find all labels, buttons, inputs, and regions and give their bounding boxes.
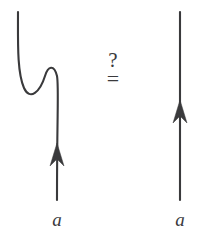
left-kinked-strand-group: [18, 12, 64, 200]
right-strand-label: a: [163, 210, 197, 229]
equals-sign-symbol: =: [96, 68, 130, 90]
diagram-svg: [0, 0, 202, 243]
left-strand-path: [18, 12, 58, 200]
right-straight-strand-group: [173, 12, 187, 200]
left-strand-label: a: [40, 210, 74, 229]
figure-canvas: ? = a a: [0, 0, 202, 243]
